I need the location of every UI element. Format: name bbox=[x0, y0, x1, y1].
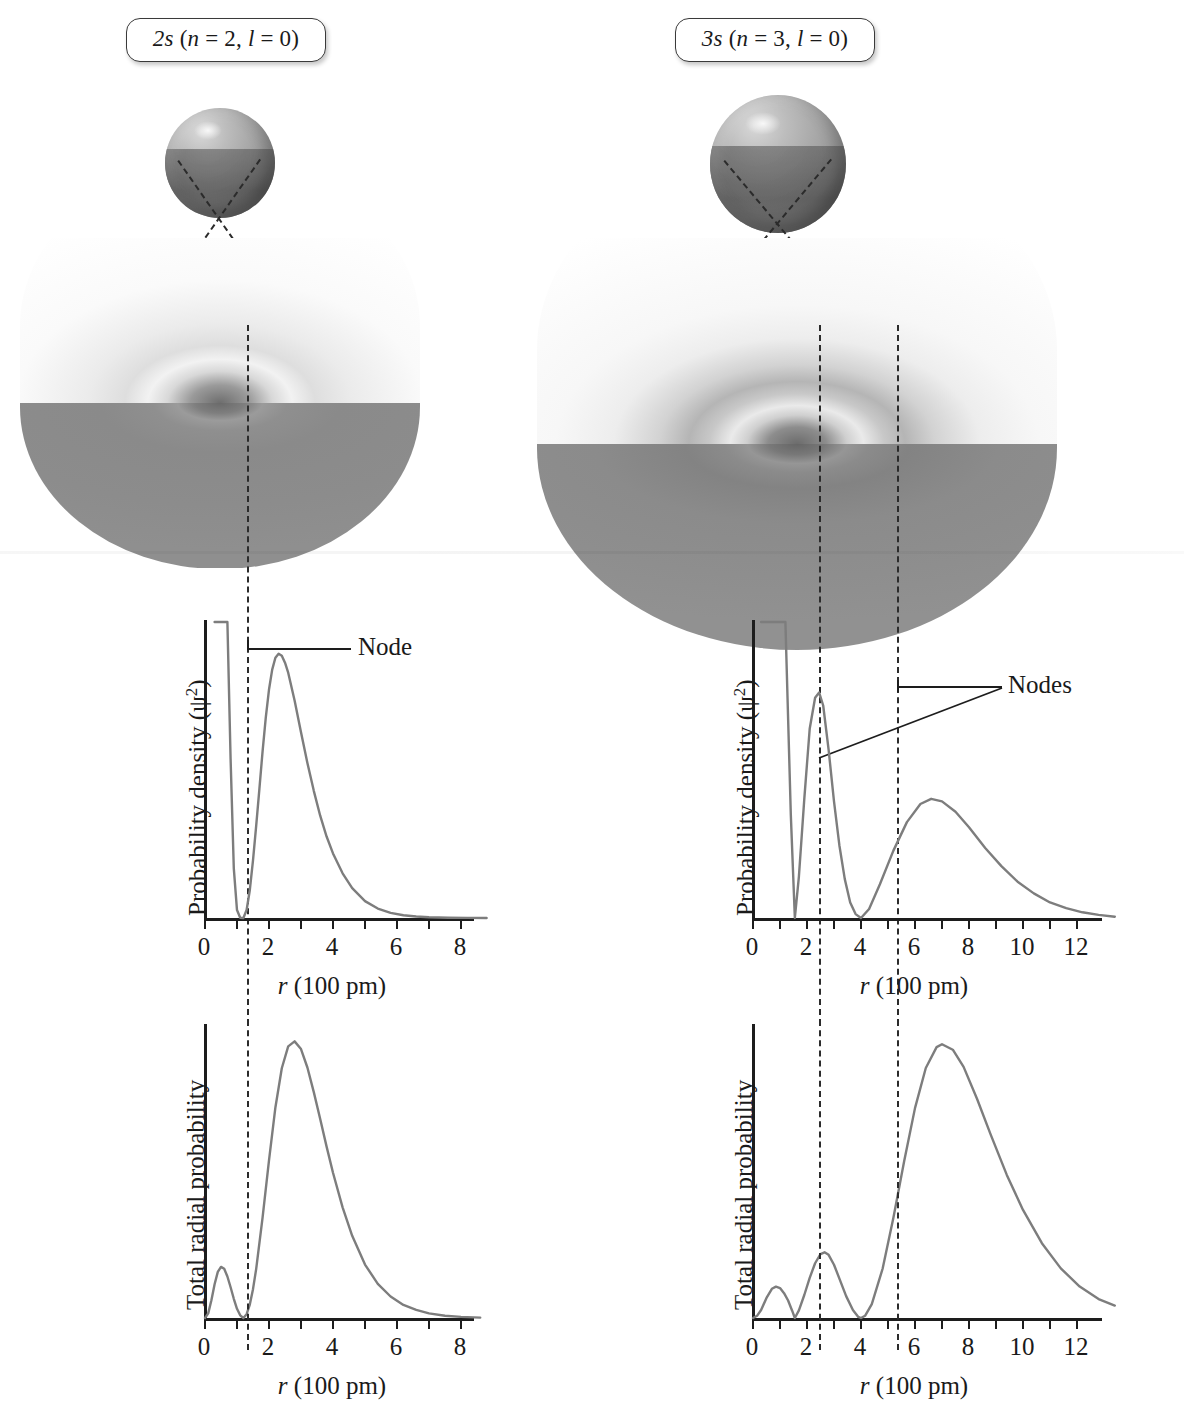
node-guide-line-3s-b-lower bbox=[897, 1020, 899, 1350]
panel-3s: 3s (n = 3, l = 0) bbox=[592, 0, 1184, 1412]
curve-3s-density bbox=[592, 600, 1184, 990]
cross-section-upper-3s bbox=[537, 238, 1057, 444]
node-guide-line-3s-a-lower bbox=[819, 1020, 821, 1350]
curve-2s-density bbox=[0, 600, 592, 990]
panel-2s: 2s (n = 2, l = 0) bbox=[0, 0, 592, 1412]
orbital-label-2s-text: 2s (n = 2, l = 0) bbox=[153, 26, 299, 51]
chart-radial-2s: Total radial probability 0 2 4 6 8 r (10… bbox=[0, 1010, 592, 1400]
cross-section-lower-2s bbox=[20, 403, 420, 568]
cross-section-upper-2s bbox=[20, 238, 420, 403]
orbital-cross-section-3s bbox=[537, 238, 1057, 650]
chart-density-3s: Probability density (ψ2) 0 2 4 6 8 10 12… bbox=[592, 600, 1184, 990]
node-guide-line-2s-lower bbox=[247, 1020, 249, 1350]
orbital-label-3s-text: 3s (n = 3, l = 0) bbox=[702, 26, 848, 51]
scan-artifact-band bbox=[0, 551, 1184, 554]
chart-radial-3s: Total radial probability 0 2 4 6 8 10 12… bbox=[592, 1010, 1184, 1400]
orbital-label-2s: 2s (n = 2, l = 0) bbox=[126, 18, 326, 62]
orbital-label-3s: 3s (n = 3, l = 0) bbox=[675, 18, 875, 62]
orbital-cross-section-2s bbox=[20, 238, 420, 568]
curve-3s-radial bbox=[592, 1010, 1184, 1400]
chart-density-2s: Probability density (ψ2) 0 2 4 6 8 r (10… bbox=[0, 600, 592, 990]
curve-2s-radial bbox=[0, 1010, 592, 1400]
